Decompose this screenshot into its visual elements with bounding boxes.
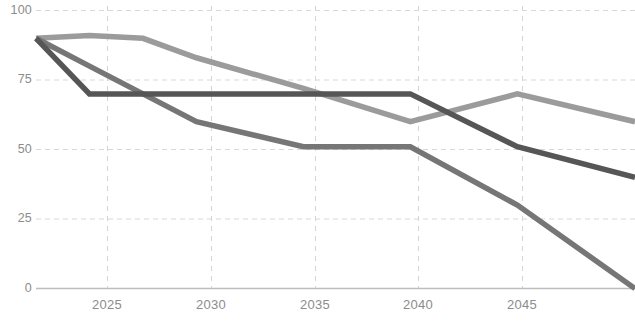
x-axis: 2025 2030 2035 2040 2045 [0, 0, 635, 321]
line-chart: 100 75 50 25 0 2025 2030 2035 2040 2045 [0, 0, 635, 321]
x-tick-label-2030: 2030 [196, 298, 226, 311]
x-tick-label-2025: 2025 [92, 298, 122, 311]
x-tick-label-2035: 2035 [300, 298, 330, 311]
x-tick-label-2045: 2045 [507, 298, 537, 311]
x-tick-label-2040: 2040 [403, 298, 433, 311]
